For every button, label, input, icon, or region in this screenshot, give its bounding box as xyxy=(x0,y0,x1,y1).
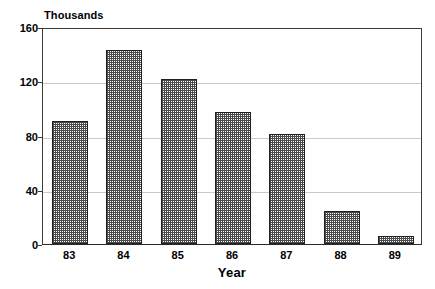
x-tick-label: 85 xyxy=(172,249,184,261)
y-tick-label: 120 xyxy=(4,77,38,88)
bar-89 xyxy=(378,236,414,244)
bar-86 xyxy=(215,112,251,244)
bars-group xyxy=(43,29,421,244)
x-tick-label: 86 xyxy=(226,249,238,261)
y-tick-label: 0 xyxy=(4,240,38,251)
y-tick-label: 160 xyxy=(4,23,38,34)
x-tick-label: 87 xyxy=(280,249,292,261)
caption-fragment xyxy=(0,282,435,289)
x-axis-title: Year xyxy=(42,265,422,280)
bar-83 xyxy=(52,121,88,244)
bar-88 xyxy=(324,211,360,244)
y-axis-unit-title: Thousands xyxy=(44,9,104,21)
x-tick-label: 84 xyxy=(117,249,129,261)
y-axis: 04080120160 xyxy=(0,28,38,245)
plot-area xyxy=(42,28,422,245)
bar-84 xyxy=(106,50,142,244)
x-tick-label: 88 xyxy=(334,249,346,261)
y-tick-label: 80 xyxy=(4,131,38,142)
y-tick-mark xyxy=(38,245,42,246)
y-tick-label: 40 xyxy=(4,185,38,196)
bar-85 xyxy=(161,79,197,244)
bar-87 xyxy=(269,134,305,244)
bar-chart: Thousands 04080120160 83848586878889 Yea… xyxy=(0,0,435,289)
x-axis-tick-labels: 83848586878889 xyxy=(42,249,422,265)
x-tick-label: 89 xyxy=(389,249,401,261)
x-tick-label: 83 xyxy=(63,249,75,261)
